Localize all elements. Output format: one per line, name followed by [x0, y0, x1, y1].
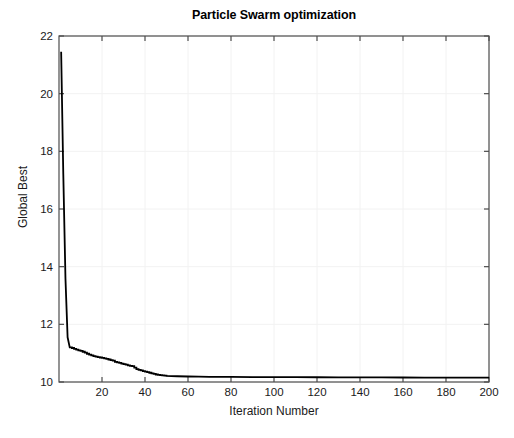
plot-area [0, 0, 514, 438]
grid-lines [59, 36, 489, 382]
data-line-global-best [61, 52, 489, 378]
chart-figure: Particle Swarm optimization Iteration Nu… [0, 0, 514, 438]
